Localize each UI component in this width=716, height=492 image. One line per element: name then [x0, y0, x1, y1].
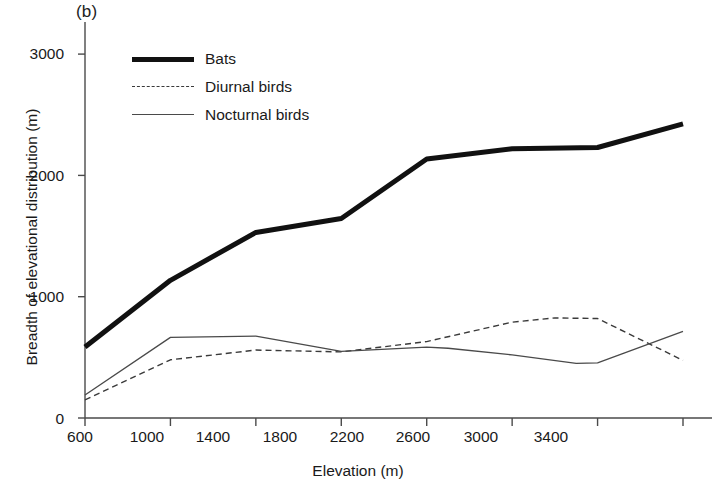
x-tick-marks	[85, 418, 683, 426]
series-line-nocturnal-birds	[85, 331, 683, 395]
y-tick-marks	[78, 54, 85, 418]
series-line-diurnal-birds	[85, 318, 683, 400]
series-lines	[85, 124, 683, 400]
figure-panel: (b) Breadth of elevational distribution …	[0, 0, 716, 492]
series-line-bats	[85, 124, 683, 347]
plot-canvas	[0, 0, 716, 492]
